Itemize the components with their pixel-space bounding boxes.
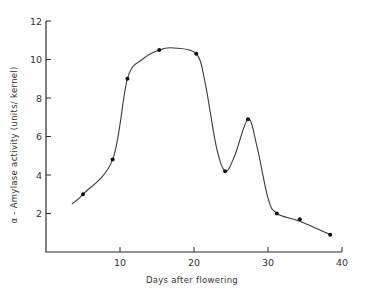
axes (46, 21, 342, 252)
y-tick-label: 8 (36, 93, 42, 104)
x-axis-label: Days after flowering (146, 275, 238, 285)
y-axis-ticks: 24681012 (30, 16, 51, 220)
data-point (81, 192, 85, 196)
axis-lines (46, 21, 342, 252)
y-axis-label: α - Amylase activity (units/ kernel) (9, 66, 19, 223)
data-point (194, 52, 198, 56)
data-point (125, 77, 129, 81)
y-tick-label: 2 (36, 208, 42, 219)
x-axis-ticks: 10203040 (114, 247, 348, 268)
x-tick-label: 30 (262, 257, 274, 268)
data-point (223, 169, 227, 173)
activity-curve (72, 48, 330, 235)
x-tick-label: 10 (114, 257, 126, 268)
data-point (275, 212, 279, 216)
y-tick-label: 6 (36, 131, 42, 142)
y-tick-label: 12 (30, 16, 42, 27)
data-points (81, 48, 332, 237)
amylase-activity-chart: 24681012 10203040 Days after flowering α… (0, 0, 368, 299)
data-point (111, 158, 115, 162)
x-tick-label: 20 (188, 257, 200, 268)
data-point (328, 233, 332, 237)
y-tick-label: 4 (36, 170, 42, 181)
y-tick-label: 10 (30, 54, 42, 65)
data-point (157, 48, 161, 52)
data-point (246, 117, 250, 121)
x-tick-label: 40 (336, 257, 348, 268)
data-point (298, 217, 302, 221)
